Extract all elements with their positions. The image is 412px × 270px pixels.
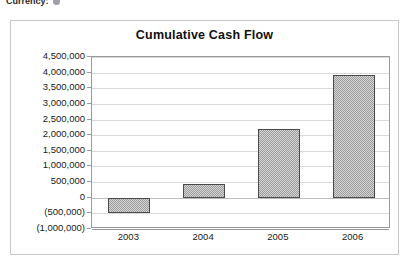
bar-2003 bbox=[108, 198, 150, 214]
y-axis-tick-label: 2,000,000 bbox=[11, 129, 85, 139]
y-axis-tick-mark bbox=[87, 212, 91, 213]
y-axis-tick-label: 0 bbox=[11, 192, 85, 202]
chart-container: Cumulative Cash Flow 4,500,0004,000,0003… bbox=[10, 20, 399, 255]
y-axis-tick-label: (500,000) bbox=[11, 207, 85, 217]
bar-2006 bbox=[333, 75, 375, 198]
y-axis-tick-mark bbox=[87, 228, 91, 229]
gridline bbox=[92, 229, 389, 230]
currency-indicator-dot-icon bbox=[53, 0, 60, 5]
y-axis-tick-mark bbox=[87, 87, 91, 88]
x-axis-tick-label: 2006 bbox=[315, 232, 390, 242]
y-axis-tick-label: 4,500,000 bbox=[11, 51, 85, 61]
x-axis-tick-label: 2004 bbox=[166, 232, 241, 242]
chart-title: Cumulative Cash Flow bbox=[11, 28, 398, 42]
y-axis-tick-label: 1,000,000 bbox=[11, 160, 85, 170]
y-axis-tick-label: 500,000 bbox=[11, 176, 85, 186]
y-axis-tick-label: 4,000,000 bbox=[11, 67, 85, 77]
y-axis-tick-mark bbox=[87, 134, 91, 135]
x-axis-tick-label: 2005 bbox=[241, 232, 316, 242]
y-axis-tick-mark bbox=[87, 103, 91, 104]
gridline bbox=[92, 73, 389, 74]
y-axis-tick-label: 3,500,000 bbox=[11, 82, 85, 92]
y-axis-tick-mark bbox=[87, 119, 91, 120]
y-axis-tick-label: 3,000,000 bbox=[11, 98, 85, 108]
gridline bbox=[92, 213, 389, 214]
y-axis-tick-label: (1,000,000) bbox=[11, 223, 85, 233]
document-header: Currency: bbox=[6, 0, 60, 8]
y-axis-tick-mark bbox=[87, 72, 91, 73]
y-axis-tick-mark bbox=[87, 56, 91, 57]
bar-2005 bbox=[258, 129, 300, 198]
currency-label: Currency: bbox=[6, 0, 49, 6]
y-axis-tick-mark bbox=[87, 197, 91, 198]
y-axis-tick-label: 1,500,000 bbox=[11, 145, 85, 155]
y-axis-tick-mark bbox=[87, 150, 91, 151]
y-axis-tick-mark bbox=[87, 181, 91, 182]
bar-2004 bbox=[183, 184, 225, 198]
y-axis-tick-label: 2,500,000 bbox=[11, 114, 85, 124]
x-axis-tick-label: 2003 bbox=[91, 232, 166, 242]
y-axis-tick-mark bbox=[87, 165, 91, 166]
plot-area bbox=[91, 56, 390, 228]
gridline bbox=[92, 57, 389, 58]
